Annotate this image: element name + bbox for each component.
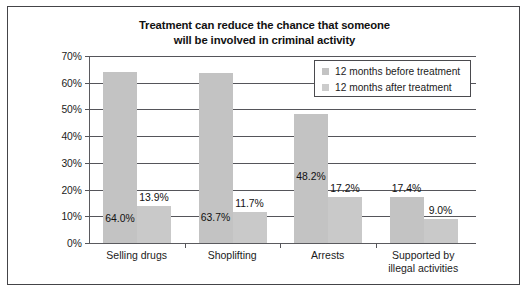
x-axis-label-shoplifting: Shoplifting	[208, 249, 257, 262]
bar-after-selling-drugs[interactable]	[137, 206, 171, 243]
x-axis-label-supported-illegal: Supported by illegal activities	[388, 249, 458, 275]
bar-label-before-supported-illegal: 17.4%	[392, 183, 421, 194]
bar-label-after-shoplifting: 11.7%	[235, 198, 264, 209]
legend-item-before[interactable]: 12 months before treatment	[322, 63, 460, 79]
y-tick-right-70	[471, 56, 476, 57]
y-tick-30	[85, 163, 89, 164]
chart-legend: 12 months before treatment 12 months aft…	[314, 60, 471, 97]
bar-label-after-supported-illegal: 9.0%	[429, 205, 453, 216]
y-axis-label-10: 10%	[61, 211, 82, 222]
y-tick-right-20	[471, 190, 476, 191]
y-tick-right-10	[471, 216, 476, 217]
y-axis-label-50: 50%	[61, 104, 82, 115]
bar-label-after-arrests: 17.2%	[330, 183, 359, 194]
gridline-70	[89, 56, 471, 57]
y-tick-right-40	[471, 136, 476, 137]
chart-title-line-1: Treatment can reduce the chance that som…	[8, 18, 521, 33]
legend-label-after: 12 months after treatment	[335, 82, 452, 93]
bar-after-shoplifting[interactable]	[233, 212, 267, 243]
legend-swatch-icon-after	[322, 84, 329, 91]
bar-label-after-selling-drugs: 13.9%	[139, 192, 168, 203]
y-tick-right-0	[471, 243, 476, 244]
y-axis-label-40: 40%	[61, 131, 82, 142]
gridline-30	[89, 163, 471, 164]
x-separator-1	[185, 243, 186, 248]
y-tick-right-60	[471, 83, 476, 84]
legend-label-before: 12 months before treatment	[335, 66, 460, 77]
chart-title-line-2: will be involved in criminal activity	[8, 33, 521, 48]
x-axis-label-arrests: Arrests	[311, 249, 344, 262]
y-axis-label-70: 70%	[61, 51, 82, 62]
bar-label-before-arrests: 48.2%	[296, 171, 325, 182]
chart-container: Treatment can reduce the chance that som…	[7, 6, 520, 285]
gridline-50	[89, 109, 471, 110]
bar-label-before-shoplifting: 63.7%	[201, 212, 230, 223]
legend-swatch-icon-before	[322, 68, 329, 75]
y-tick-0	[85, 243, 89, 244]
y-axis-label-20: 20%	[61, 184, 82, 195]
y-axis-label-60: 60%	[61, 77, 82, 88]
y-axis-label-30: 30%	[61, 157, 82, 168]
x-separator-2	[280, 243, 281, 248]
y-tick-right-50	[471, 109, 476, 110]
bar-before-supported-illegal[interactable]	[390, 197, 424, 244]
y-tick-20	[85, 190, 89, 191]
y-tick-60	[85, 83, 89, 84]
y-tick-right-30	[471, 163, 476, 164]
y-tick-50	[85, 109, 89, 110]
x-separator-3	[376, 243, 377, 248]
x-axis-label-selling-drugs: Selling drugs	[106, 249, 167, 262]
y-tick-10	[85, 216, 89, 217]
bar-after-arrests[interactable]	[328, 197, 362, 243]
legend-item-after[interactable]: 12 months after treatment	[322, 79, 452, 95]
y-tick-40	[85, 136, 89, 137]
bar-label-before-selling-drugs: 64.0%	[105, 213, 134, 224]
bar-after-supported-illegal[interactable]	[424, 219, 458, 243]
gridline-40	[89, 136, 471, 137]
chart-title: Treatment can reduce the chance that som…	[8, 18, 521, 47]
y-axis-line	[89, 56, 90, 243]
y-axis-label-0: 0%	[67, 238, 82, 249]
y-tick-70	[85, 56, 89, 57]
